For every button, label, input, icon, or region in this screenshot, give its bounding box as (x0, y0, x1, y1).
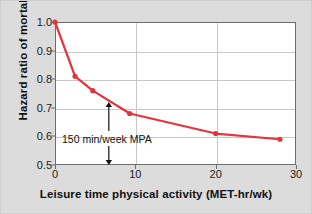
data-point-marker (127, 111, 132, 116)
data-point-marker (72, 74, 77, 79)
data-point-marker (213, 131, 218, 136)
series-line (55, 22, 280, 139)
chart-figure: Hazard ratio of mortality Leisure time p… (0, 0, 312, 214)
series-overlay (0, 0, 312, 214)
annotation-label: 150 min/week MPA (62, 133, 152, 145)
line-series (52, 19, 282, 141)
data-point-marker (90, 88, 95, 93)
data-point-marker (52, 19, 57, 24)
data-point-marker (277, 137, 282, 142)
annotation-arrow-head (106, 160, 112, 165)
